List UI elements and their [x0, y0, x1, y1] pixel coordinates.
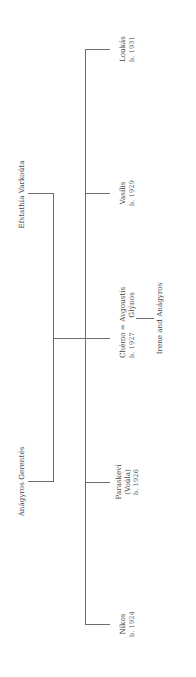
paraskevi-birth: b. 1926 [132, 460, 141, 504]
nikos-birth: b. 1924 [128, 606, 137, 642]
nikos-name: Níkos [119, 606, 128, 642]
parents-to-children-line [53, 338, 110, 339]
chemo-descendants: Irene and Anágyros [156, 277, 165, 361]
spouse-surname: Glýnos [127, 292, 136, 318]
chemo-descent-line [136, 318, 154, 319]
paraskevi-branch [85, 482, 110, 483]
child-nikos: Níkos b. 1924 [119, 606, 137, 642]
loukas-birth: b. 1931 [128, 31, 137, 67]
children-sibling-line [85, 49, 86, 625]
child-loukas: Loukás b. 1931 [119, 31, 137, 67]
nikos-branch [85, 624, 110, 625]
father-name: Anágyros Gerentés [18, 442, 27, 522]
marriage-symbol: = [118, 324, 127, 330]
chemo-name: Chémo [118, 332, 127, 358]
mother-name: Efstathía Varkoúta [18, 155, 27, 235]
mother-name-text: Efstathía Varkoúta [17, 161, 26, 229]
child-paraskevi: Paraskeví (Voúla) b. 1926 [115, 460, 141, 504]
chemo-second-line: b. 1927 Glýnos [128, 278, 137, 358]
chemo-marriage-line: Chémo = Avgoustís [119, 278, 128, 358]
loukas-branch [85, 49, 110, 50]
vasilis-birth: b. 1929 [128, 175, 137, 211]
paraskevi-nickname: (Voúla) [124, 460, 133, 504]
chemo-birth: b. 1927 [128, 332, 136, 358]
child-vasilis: Vasílis b. 1929 [119, 175, 137, 211]
mother-connector [28, 193, 54, 194]
vasilis-name: Vasílis [119, 175, 128, 211]
child-chemo-marriage: Chémo = Avgoustís b. 1927 Glýnos [119, 278, 137, 358]
vasilis-branch [85, 193, 110, 194]
descendants-text: Irene and Anágyros [155, 283, 164, 355]
loukas-name: Loukás [119, 31, 128, 67]
father-connector [28, 481, 54, 482]
father-name-text: Anágyros Gerentés [17, 447, 26, 517]
